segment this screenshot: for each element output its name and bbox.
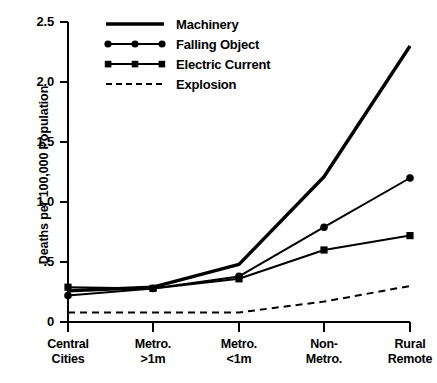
legend-label-falling-object: Falling Object (176, 37, 259, 52)
x-tick-line1: Metro. (221, 337, 257, 351)
legend-item-electric-current: Electric Current (104, 54, 270, 74)
legend-item-explosion: Explosion (104, 74, 270, 94)
legend-item-falling-object: Falling Object (104, 34, 270, 54)
x-tick-line1: Metro. (135, 337, 171, 351)
legend-label-electric-current: Electric Current (176, 57, 270, 72)
data-point-electric-current-4 (406, 232, 413, 239)
data-point-falling-object-3 (320, 223, 328, 231)
data-point-falling-object-4 (406, 174, 414, 182)
chart-legend: Machinery Falling Object (104, 14, 270, 94)
x-tick-line2: Cities (22, 352, 114, 367)
x-tick-line1: Central (47, 337, 89, 351)
x-tick-line2: Metro. (278, 352, 370, 367)
x-axis-ticks (68, 322, 410, 332)
data-point-electric-current-1 (149, 285, 156, 292)
y-axis-ticks (60, 22, 68, 322)
data-point-electric-current-0 (64, 284, 71, 291)
data-point-electric-current-3 (320, 246, 327, 253)
x-tick-line2: >1m (107, 352, 199, 367)
x-tick-label-metro-gt1m: Metro. >1m (107, 337, 199, 367)
legend-item-machinery: Machinery (104, 14, 270, 34)
legend-key-circle-marker-icon (104, 35, 166, 53)
legend-key-dashed-icon (104, 75, 166, 93)
x-tick-label-central-cities: Central Cities (22, 337, 114, 367)
x-tick-line1: Rural (395, 337, 426, 351)
x-tick-label-metro-lt1m: Metro. <1m (193, 337, 285, 367)
legend-key-solid-thick-icon (104, 15, 166, 33)
x-tick-label-rural-remote: Rural Remote (364, 337, 437, 367)
data-point-falling-object-0 (64, 292, 72, 300)
data-point-electric-current-2 (235, 275, 242, 282)
legend-key-square-marker-icon (104, 55, 166, 73)
x-tick-line2: <1m (193, 352, 285, 367)
legend-label-machinery: Machinery (176, 17, 239, 32)
x-tick-line2: Remote (364, 352, 437, 367)
x-tick-line1: Non- (310, 337, 338, 351)
legend-label-explosion: Explosion (176, 77, 236, 92)
x-tick-label-non-metro: Non- Metro. (278, 337, 370, 367)
